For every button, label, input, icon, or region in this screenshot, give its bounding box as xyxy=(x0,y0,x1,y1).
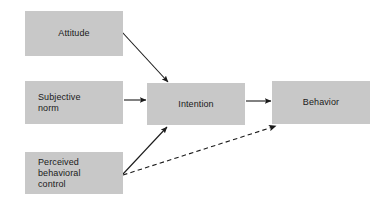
node-subjective-norm: Subjective norm xyxy=(25,81,123,124)
node-attitude: Attitude xyxy=(25,11,123,56)
node-intention: Intention xyxy=(147,83,245,125)
node-attitude-label: Attitude xyxy=(58,28,89,39)
theory-of-planned-behavior-diagram: Attitude Subjective norm Perceived behav… xyxy=(0,0,382,208)
node-perceived-behavioral-control: Perceived behavioral control xyxy=(25,152,123,194)
node-perceived-behavioral-control-label: Perceived behavioral control xyxy=(38,157,81,190)
node-behavior: Behavior xyxy=(272,81,370,124)
edge-perceived-behavioral-control-to-intention xyxy=(123,127,167,174)
edge-attitude-to-intention xyxy=(122,32,168,82)
node-behavior-label: Behavior xyxy=(303,97,339,108)
node-subjective-norm-label: Subjective norm xyxy=(38,92,81,114)
node-intention-label: Intention xyxy=(178,99,213,110)
edge-perceived-behavioral-control-to-behavior xyxy=(123,126,276,175)
